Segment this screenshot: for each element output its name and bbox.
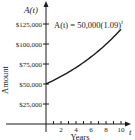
y-axis-label: Amount [0, 65, 10, 94]
y-tick-label: $125,000 [16, 21, 43, 29]
exponential-growth-chart: $25,000$50,000$75,000$100,000$125,000 24… [0, 0, 135, 140]
equation-exponent: t [121, 19, 123, 25]
equation-annotation: A(t) = 50,000(1.09)t [54, 19, 123, 30]
y-axis-name: A(t) [23, 5, 38, 15]
x-tick-label: 10 [118, 126, 126, 134]
y-tick-label: $25,000 [19, 101, 42, 109]
y-tick-label: $50,000 [19, 81, 42, 89]
growth-curve [46, 29, 121, 84]
y-ticks: $25,000$50,000$75,000$100,000$125,000 [16, 21, 49, 109]
y-tick-label: $75,000 [19, 61, 42, 69]
x-axis-label: Years [71, 132, 90, 140]
y-tick-label: $100,000 [16, 41, 43, 49]
equation-text: A(t) = 50,000(1.09) [54, 20, 121, 30]
x-axis-name: t [129, 127, 132, 137]
x-tick-label: 2 [59, 126, 63, 134]
y-axis-arrow-icon [44, 1, 49, 7]
x-tick-label: 6 [89, 126, 93, 134]
x-tick-label: 8 [104, 126, 108, 134]
x-axis-arrow-icon [125, 122, 131, 127]
